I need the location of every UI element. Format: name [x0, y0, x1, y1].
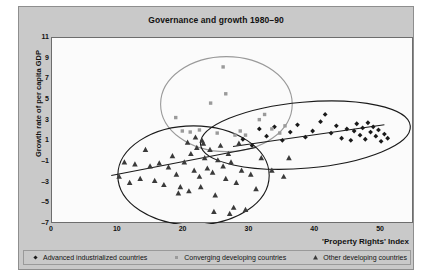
x-tick-label: 0	[39, 225, 63, 232]
diamond-marker	[329, 131, 334, 136]
x-tick-label: 30	[236, 225, 260, 232]
diamond-marker	[240, 137, 245, 142]
chart-title: Governance and growth 1980–90	[19, 15, 413, 25]
diamond-marker	[257, 127, 262, 132]
diamond-marker	[32, 254, 39, 261]
triangle-marker	[137, 176, 143, 181]
triangle-marker	[218, 143, 224, 148]
triangle-marker	[156, 160, 162, 165]
triangle-marker	[228, 159, 234, 164]
square-marker	[239, 129, 242, 132]
triangle-marker	[281, 174, 287, 179]
diamond-marker	[288, 130, 293, 135]
diamond-marker	[382, 132, 387, 137]
triangle-marker	[197, 174, 203, 179]
square-marker	[244, 133, 247, 136]
diamond-marker	[295, 122, 300, 127]
triangle-marker	[143, 147, 149, 152]
triangle-marker	[170, 153, 176, 158]
square-marker	[173, 254, 180, 261]
diamond-marker	[264, 134, 269, 139]
square-marker	[174, 116, 177, 119]
triangle-marker	[174, 172, 180, 177]
triangle-marker	[186, 188, 192, 193]
diamond-marker	[354, 121, 359, 126]
x-axis-label: 'Property Rights' Index	[322, 237, 409, 246]
triangle-marker	[236, 141, 242, 146]
square-marker	[198, 128, 201, 131]
square-marker	[270, 127, 273, 130]
triangle-marker	[193, 134, 199, 139]
triangle-marker	[312, 254, 319, 261]
legend-label: Advanced industrialized countries	[43, 254, 147, 261]
square-marker	[209, 101, 212, 104]
triangle-marker	[161, 182, 167, 187]
triangle-marker	[269, 167, 275, 172]
triangle-marker	[220, 163, 226, 168]
triangle-marker	[231, 205, 237, 210]
y-tick-label: –3	[27, 178, 49, 185]
square-marker	[233, 133, 236, 136]
triangle-marker	[313, 255, 318, 260]
square-marker	[181, 129, 184, 132]
x-tick-label: 10	[105, 225, 129, 232]
triangle-marker	[188, 151, 194, 156]
diamond-marker	[310, 129, 315, 134]
triangle-marker	[248, 172, 254, 177]
scatter-plot-canvas	[52, 38, 414, 224]
diamond-marker	[373, 134, 378, 139]
triangle-marker	[176, 190, 182, 195]
diamond-marker	[33, 255, 37, 259]
x-tick-label: 40	[302, 225, 326, 232]
x-tick-label: 20	[171, 225, 195, 232]
y-axis-label: Growth rate of per capita GDP	[34, 29, 43, 179]
triangle-marker	[253, 186, 259, 191]
triangle-marker	[205, 165, 211, 170]
x-tick-label: 50	[368, 225, 392, 232]
diamond-marker	[376, 128, 381, 133]
triangle-marker	[212, 192, 218, 197]
diamond-marker	[363, 137, 368, 142]
diamond-marker	[379, 139, 384, 144]
diamond-marker	[371, 124, 376, 129]
diamond-marker	[358, 133, 363, 138]
triangle-marker	[243, 207, 249, 212]
legend-item-other[interactable]: Other developing countries	[312, 254, 407, 261]
legend-label: Converging developing countries	[184, 254, 286, 261]
square-marker	[258, 118, 261, 121]
triangle-marker	[127, 180, 133, 185]
triangle-marker	[178, 184, 184, 189]
triangle-marker	[198, 184, 204, 189]
square-marker	[224, 92, 227, 95]
square-marker	[216, 131, 219, 134]
diamond-marker	[280, 138, 285, 143]
diamond-marker	[323, 112, 328, 117]
triangle-marker	[227, 211, 233, 216]
figure-panel: Governance and growth 1980–90 –7–5–3–113…	[18, 6, 414, 270]
legend-item-advanced[interactable]: Advanced industrialized countries	[32, 254, 147, 261]
legend-item-converging[interactable]: Converging developing countries	[173, 254, 286, 261]
plot-area	[51, 37, 413, 223]
square-marker	[278, 131, 281, 134]
square-marker	[175, 256, 178, 259]
triangle-marker	[286, 155, 292, 160]
series-triangle	[116, 134, 291, 216]
x-axis-ticks: 01020304050	[51, 225, 413, 237]
diamond-marker	[339, 136, 344, 141]
triangle-marker	[211, 209, 217, 214]
diamond-marker	[360, 126, 365, 131]
triangle-marker	[239, 167, 245, 172]
diamond-marker	[385, 136, 390, 141]
triangle-marker	[132, 161, 138, 166]
square-marker	[283, 124, 286, 127]
triangle-marker	[223, 176, 229, 181]
diamond-marker	[368, 130, 373, 135]
legend-label: Other developing countries	[323, 254, 407, 261]
square-marker	[263, 113, 266, 116]
triangle-marker	[233, 180, 239, 185]
triangle-marker	[152, 178, 158, 183]
triangle-marker	[210, 170, 216, 175]
triangle-marker	[147, 163, 153, 168]
triangle-marker	[191, 167, 197, 172]
chart-legend: Advanced industrialized countriesConverg…	[23, 250, 411, 265]
